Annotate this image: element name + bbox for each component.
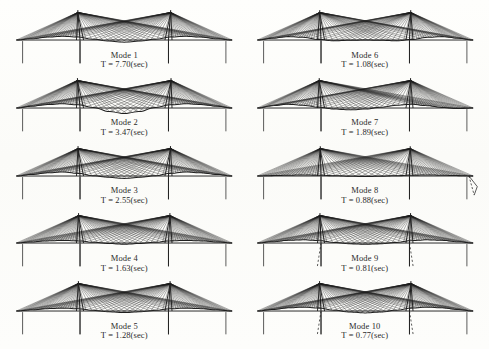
mode-shape-drawing [247,72,484,140]
mode-cell-3: Mode 3T = 2.55(sec) [6,140,243,208]
mode-cell-4: Mode 4T = 1.63(sec) [6,207,243,275]
mode-cell-1: Mode 1T = 7.70(sec) [6,4,243,72]
mode-shape-drawing [247,140,484,208]
mode-shape-drawing [6,140,243,208]
mode-shape-drawing [6,275,243,343]
mode-cell-6: Mode 6T = 1.08(sec) [247,4,484,72]
mode-cell-9: Mode 9T = 0.81(sec) [247,207,484,275]
mode-shape-drawing [247,207,484,275]
mode-shape-drawing [6,72,243,140]
mode-shape-drawing [6,4,243,72]
mode-cell-8: Mode 8T = 0.88(sec) [247,140,484,208]
mode-cell-10: Mode 10T = 0.77(sec) [247,275,484,343]
mode-cell-5: Mode 5T = 1.28(sec) [6,275,243,343]
mode-cell-2: Mode 2T = 3.47(sec) [6,72,243,140]
mode-shape-drawing [247,275,484,343]
mode-cell-7: Mode 7T = 1.89(sec) [247,72,484,140]
mode-shape-drawing [6,207,243,275]
mode-shape-grid: Mode 1T = 7.70(sec)Mode 6T = 1.08(sec)Mo… [0,0,489,349]
mode-shape-drawing [247,4,484,72]
